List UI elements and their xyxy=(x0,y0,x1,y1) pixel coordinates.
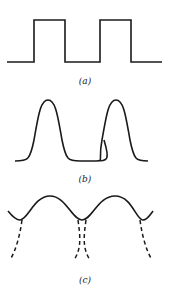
periodic-solid-curve xyxy=(8,196,153,220)
dashed-branches xyxy=(10,220,152,260)
panel-c-label: (c) xyxy=(0,275,170,285)
pulse-wave-curve xyxy=(15,100,148,161)
figure-canvas xyxy=(0,0,170,293)
panel-b-label: (b) xyxy=(0,174,170,184)
square-wave-curve xyxy=(7,20,162,62)
panel-a-label: (a) xyxy=(0,76,170,86)
